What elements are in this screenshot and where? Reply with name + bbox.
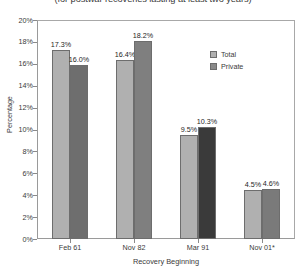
chart-legend: TotalPrivate [210, 49, 243, 73]
y-axis-tick-label: 16% [0, 59, 33, 68]
legend-item[interactable]: Private [210, 61, 243, 72]
x-axis-title: Recovery Beginning [37, 257, 295, 266]
bar-private[interactable] [262, 189, 280, 239]
bar-private[interactable] [134, 41, 152, 239]
bar-group: 17.3%16.0% [52, 21, 88, 239]
bar-total[interactable] [116, 60, 134, 239]
y-axis-tick-label: 0% [0, 235, 33, 244]
y-axis-tick-label: 14% [0, 81, 33, 90]
bar-value-label: 18.2% [130, 31, 156, 40]
x-axis-category-label: Mar 91 [168, 243, 228, 253]
legend-label: Private [221, 62, 243, 71]
y-axis-tick-label: 2% [0, 213, 33, 222]
x-axis-category-label: Feb 61 [40, 243, 100, 253]
legend-item[interactable]: Total [210, 49, 243, 60]
y-axis-tick-label: 4% [0, 191, 33, 200]
bar-group: 16.4%18.2% [116, 21, 152, 239]
bar-total[interactable] [180, 135, 198, 239]
bar-group: 4.5%4.6% [244, 21, 280, 239]
y-axis-tick-label: 12% [0, 103, 33, 112]
bars-layer: 17.3%16.0%16.4%18.2%9.5%10.3%4.5%4.6% [38, 21, 294, 239]
bar-value-label: 10.3% [194, 117, 220, 126]
bar-total[interactable] [52, 50, 70, 239]
y-axis-tick-mark [33, 239, 37, 240]
y-axis-tick-label: 8% [0, 147, 33, 156]
y-axis-tick-label: 20% [0, 16, 33, 25]
bar-value-label: 4.6% [258, 179, 284, 188]
y-axis-tick-label: 10% [0, 125, 33, 134]
bar-private[interactable] [198, 127, 216, 239]
x-axis-category-label: Nov 01* [232, 243, 292, 253]
bar-value-label: 16.0% [66, 55, 92, 64]
chart-title: (for postwar recoveries lasting at least… [0, 0, 306, 4]
legend-swatch-icon [210, 63, 217, 70]
bar-value-label: 17.3% [48, 40, 74, 49]
x-axis-category-label: Nov 82 [104, 243, 164, 253]
y-axis-tick-label: 18% [0, 37, 33, 46]
legend-swatch-icon [210, 51, 217, 58]
legend-label: Total [221, 50, 236, 59]
bar-total[interactable] [244, 190, 262, 239]
y-axis-tick-label: 6% [0, 169, 33, 178]
bar-private[interactable] [70, 65, 88, 239]
bar-chart: (for postwar recoveries lasting at least… [0, 0, 306, 271]
